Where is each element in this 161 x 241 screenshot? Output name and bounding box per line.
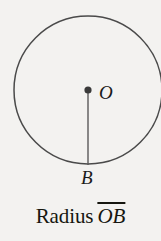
caption-segment-overline: OB bbox=[97, 203, 125, 228]
caption-word: Radius bbox=[36, 204, 94, 228]
geometry-figure: O B RadiusOB bbox=[0, 0, 161, 241]
caption: RadiusOB bbox=[0, 205, 161, 227]
arc-point-label-b: B bbox=[81, 168, 93, 187]
center-point-dot bbox=[84, 86, 91, 93]
center-point-label-o: O bbox=[99, 83, 113, 102]
